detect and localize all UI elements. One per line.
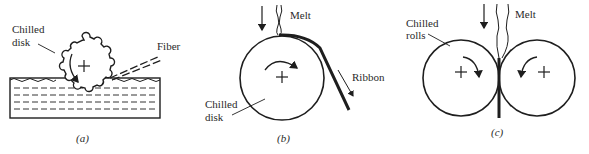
right-chilled-roll (499, 40, 575, 116)
rotation-arrow-icon-b (265, 61, 297, 70)
label-ribbon: Ribbon (352, 71, 385, 83)
roll-center-mark-right (538, 66, 550, 78)
fiber-stream (110, 56, 162, 80)
label-disk-b: disk (205, 111, 224, 123)
label-melt-b: Melt (290, 9, 311, 21)
roll-center-mark-left (455, 66, 467, 78)
label-fiber: Fiber (157, 40, 181, 52)
chilled-disk-gear (59, 32, 114, 91)
caption-b: (b) (277, 132, 290, 145)
leader-line-disk-a (38, 44, 55, 53)
panel-c: Melt Chilled rolls (c) (406, 4, 575, 139)
rapid-solidification-diagram: Chilled disk Fiber (a) Melt Ribbon Chill… (0, 0, 589, 154)
label-rolls-c: rolls (406, 29, 426, 41)
label-chilled-b: Chilled (205, 98, 238, 110)
label-chilled-c: Chilled (406, 17, 439, 29)
panel-a: Chilled disk Fiber (a) (10, 23, 181, 145)
disk-center-mark-b (276, 71, 288, 83)
melt-stream-c (496, 4, 509, 58)
label-chilled-a: Chilled (12, 23, 45, 35)
caption-a: (a) (76, 132, 89, 145)
melt-stream-b (276, 5, 282, 35)
rotation-arrow-icon-c-left (463, 57, 479, 77)
rotation-arrow-icon-c-right (521, 57, 537, 77)
label-melt-c: Melt (515, 8, 536, 20)
panel-b: Melt Ribbon Chilled disk (b) (205, 5, 385, 145)
leader-line-rolls (428, 34, 450, 46)
caption-c: (c) (491, 126, 504, 139)
ribbon (279, 35, 349, 110)
label-disk-a: disk (12, 36, 31, 48)
